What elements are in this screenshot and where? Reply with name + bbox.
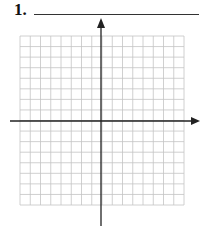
x-axis-arrow-icon xyxy=(191,117,200,125)
y-axis-arrow-icon xyxy=(97,18,105,28)
coordinate-grid xyxy=(0,0,206,236)
